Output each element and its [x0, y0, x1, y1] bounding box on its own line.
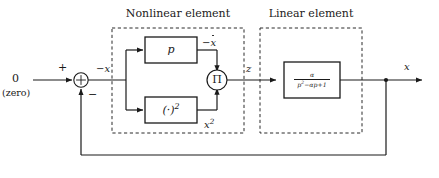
signal-path-derivative-to-multiplier — [197, 50, 217, 72]
signal-path-sum-to-split — [88, 50, 143, 110]
source-value-label: 0 — [12, 73, 19, 84]
transfer-denominator: p2−αp+1 — [294, 79, 329, 89]
diagram-vector-layer — [0, 0, 439, 178]
summing-junction-symbol — [74, 73, 88, 87]
transfer-numerator: α — [294, 71, 329, 79]
signal-label-error: −x — [96, 64, 110, 74]
block-label-square-exponent: 2 — [175, 102, 180, 111]
signal-label-square-out: x2 — [204, 118, 214, 130]
block-label-transfer-function: α p2−αp+1 — [284, 62, 340, 98]
derivative-out-sign: − — [202, 37, 210, 48]
signal-label-product: z — [246, 64, 251, 74]
signal-path-transfer-to-output — [340, 78, 422, 82]
group-title-linear: Linear element — [260, 8, 362, 19]
transfer-function-fraction: α p2−αp+1 — [294, 71, 329, 88]
block-label-square: (·)2 — [145, 103, 197, 116]
group-title-nonlinear: Nonlinear element — [112, 8, 244, 19]
block-label-square-base: (·) — [162, 104, 174, 117]
transfer-denominator-rest: −αp+1 — [304, 81, 326, 88]
signal-label-output: x — [404, 62, 410, 72]
summing-plus-sign: + — [58, 62, 67, 73]
signal-label-derivative-out: −x — [202, 38, 216, 48]
summing-minus-sign: − — [88, 89, 97, 100]
block-diagram-canvas: Nonlinear element Linear element 0 (zero… — [0, 0, 439, 178]
block-label-derivative: p — [145, 44, 197, 55]
derivative-out-variable: x — [210, 38, 216, 48]
multiplier-glyph-label: Π — [212, 74, 222, 85]
source-caption-label: (zero) — [2, 88, 30, 98]
square-out-exponent: 2 — [210, 117, 215, 126]
signal-path-square-to-multiplier — [197, 89, 217, 111]
